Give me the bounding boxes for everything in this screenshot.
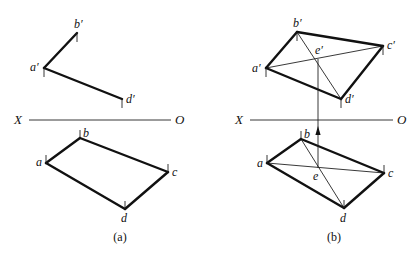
edge-d-a bbox=[46, 163, 125, 209]
point-label-a: a bbox=[257, 156, 263, 170]
projection-figure: XOa′b′d′abcd(a) XOa′b′c′d′e′abcde(b) bbox=[0, 0, 418, 259]
point-label-b-prime: b′ bbox=[293, 16, 302, 30]
o-axis-label: O bbox=[397, 112, 407, 127]
point-label-e: e bbox=[313, 169, 319, 183]
edge-a-b bbox=[46, 138, 80, 163]
point-label-a-prime: a′ bbox=[30, 60, 39, 74]
edge-b-c bbox=[80, 138, 168, 172]
point-label-c: c bbox=[388, 166, 394, 180]
point-label-a: a bbox=[36, 155, 42, 169]
point-label-b: b bbox=[304, 127, 310, 141]
panel-b: XOa′b′c′d′e′abcde(b) bbox=[234, 16, 407, 244]
point-label-d: d bbox=[121, 211, 128, 225]
point-label-a-prime: a′ bbox=[252, 61, 261, 75]
edge-b-c bbox=[301, 139, 384, 173]
edge-c-d bbox=[125, 172, 168, 209]
diagram-canvas: XOa′b′d′abcd(a) XOa′b′c′d′e′abcde(b) bbox=[0, 0, 418, 259]
point-label-b: b bbox=[83, 126, 89, 140]
edge-d-a bbox=[267, 163, 344, 208]
point-label-d-prime: d′ bbox=[126, 92, 135, 106]
o-axis-label: O bbox=[175, 112, 185, 127]
arrow-up-icon bbox=[315, 126, 320, 135]
edge-a-b bbox=[267, 139, 301, 163]
x-axis-label: X bbox=[234, 112, 244, 127]
diagonal-b-d bbox=[301, 139, 344, 208]
diagonal-a-c bbox=[267, 163, 384, 173]
point-label-d-prime: d′ bbox=[345, 92, 354, 106]
edge-b-prime-c-prime bbox=[297, 32, 383, 46]
cropped-text-line bbox=[0, 0, 418, 4]
edge-a-prime-b-prime bbox=[44, 33, 77, 68]
point-label-d: d bbox=[340, 211, 347, 225]
caption-b: (b) bbox=[327, 230, 341, 244]
edge-d-prime-a-prime bbox=[266, 68, 341, 99]
point-label-c-prime: c′ bbox=[387, 38, 395, 52]
x-axis-label: X bbox=[13, 112, 23, 127]
caption-a: (a) bbox=[113, 230, 126, 244]
edge-c-d bbox=[344, 173, 384, 208]
point-label-e-prime: e′ bbox=[315, 43, 323, 57]
panel-a: XOa′b′d′abcd(a) bbox=[13, 17, 185, 244]
point-label-c: c bbox=[172, 165, 178, 179]
point-label-b-prime: b′ bbox=[74, 17, 83, 31]
edge-a-prime-d-prime bbox=[44, 68, 122, 99]
